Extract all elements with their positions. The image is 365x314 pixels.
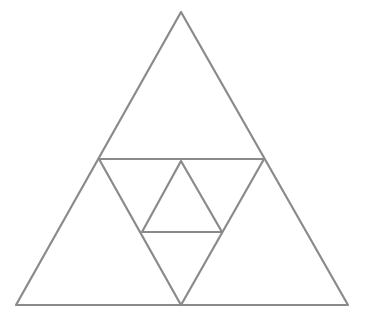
- triangle-figure: [0, 0, 365, 314]
- background: [0, 0, 365, 314]
